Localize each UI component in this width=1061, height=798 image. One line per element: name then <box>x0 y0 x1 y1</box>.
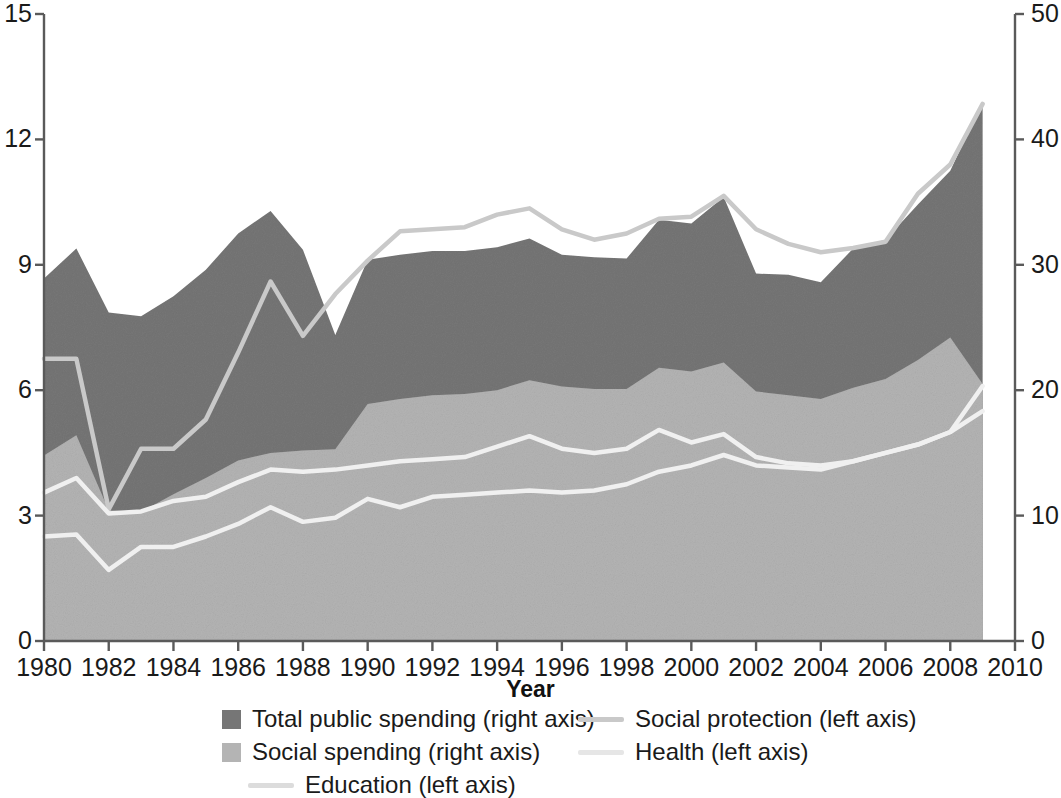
y-axis-right-tick-label: 40 <box>1031 126 1059 151</box>
legend-swatch-line-icon <box>578 750 624 755</box>
legend-item[interactable]: Education (left axis) <box>248 772 516 798</box>
y-axis-left-tick-label: 12 <box>0 126 32 151</box>
y-axis-right-tick-label: 30 <box>1031 252 1059 277</box>
legend-swatch-line-icon <box>578 717 624 722</box>
legend-item[interactable]: Social spending (right axis) <box>222 739 540 765</box>
legend-item-label: Social protection (left axis) <box>635 706 916 732</box>
legend-item-label: Total public spending (right axis) <box>252 706 595 732</box>
legend-item-label: Social spending (right axis) <box>252 739 540 765</box>
legend-item[interactable]: Social protection (left axis) <box>578 706 916 732</box>
y-axis-right-tick-label: 10 <box>1031 503 1059 528</box>
x-axis-title: Year <box>0 676 1061 703</box>
y-axis-left-tick-label: 3 <box>0 503 32 528</box>
legend-item-label: Education (left axis) <box>305 772 516 798</box>
y-axis-right-tick-label: 50 <box>1031 1 1059 26</box>
legend-item[interactable]: Total public spending (right axis) <box>222 706 595 732</box>
legend-item[interactable]: Health (left axis) <box>578 739 808 765</box>
y-axis-left-tick-label: 15 <box>0 1 32 26</box>
legend-item-label: Health (left axis) <box>635 739 808 765</box>
y-axis-left-tick-label: 0 <box>0 628 32 653</box>
legend-swatch-square-icon <box>222 743 241 762</box>
y-axis-left-tick-label: 9 <box>0 252 32 277</box>
y-axis-left-tick-label: 6 <box>0 377 32 402</box>
y-axis-right-tick-label: 20 <box>1031 377 1059 402</box>
legend-swatch-square-icon <box>222 710 241 729</box>
legend-swatch-line-icon <box>248 783 294 788</box>
y-axis-right-tick-label: 0 <box>1031 628 1045 653</box>
